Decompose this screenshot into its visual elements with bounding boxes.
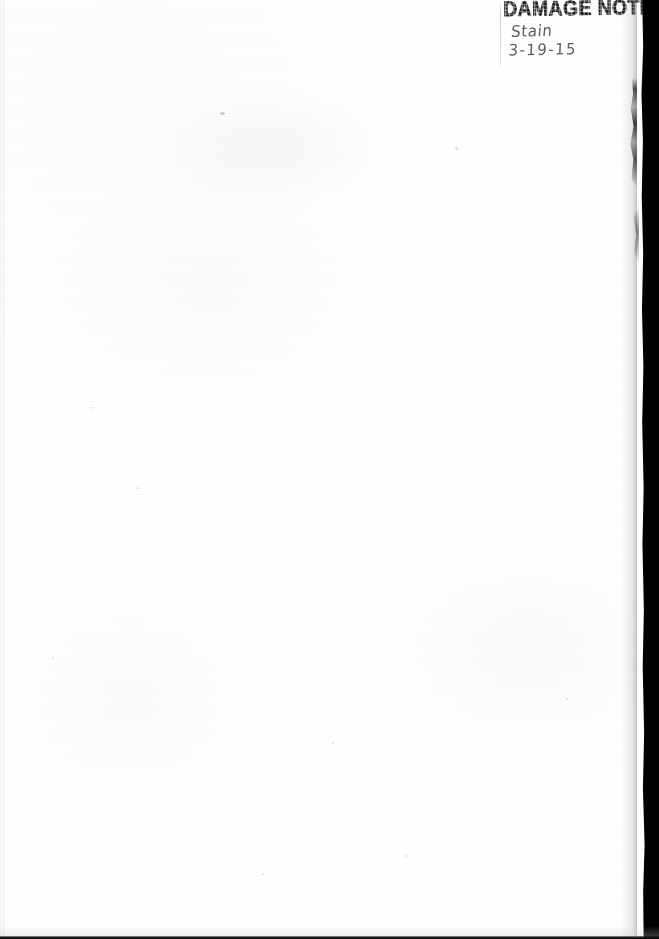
paper-surface xyxy=(0,0,659,939)
left-edge-line xyxy=(3,0,5,939)
handwritten-damage-date: 3-19-15 xyxy=(508,40,577,60)
label-edge-rule xyxy=(500,0,501,66)
bottom-edge-shadow xyxy=(0,926,659,936)
handwritten-damage-description: Stain xyxy=(511,21,554,41)
scanned-document-page: DAMAGE NOTE Stain 3-19-15 xyxy=(0,0,659,939)
left-edge-artifact xyxy=(0,0,2,939)
